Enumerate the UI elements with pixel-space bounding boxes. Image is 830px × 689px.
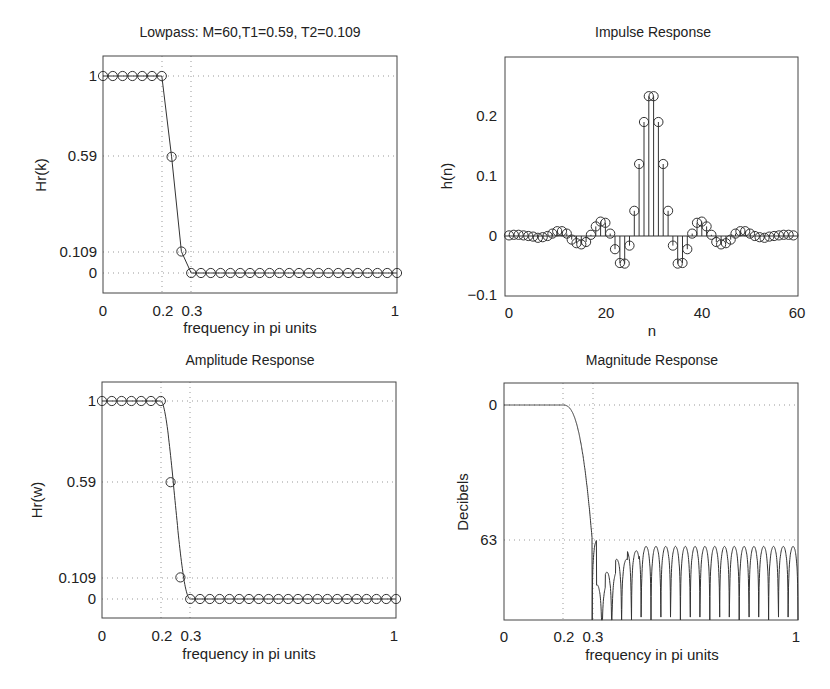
svg-text:0.59: 0.59 [67,473,96,490]
plot-magnitude-response: Magnitude Response 0 63 0 0.2 0.3 1 freq… [454,352,800,663]
svg-text:0.1: 0.1 [476,167,497,184]
plot-title: Lowpass: M=60,T1=0.59, T2=0.109 [139,24,360,40]
gridlines [103,56,397,293]
axes-frame [103,56,397,293]
svg-text:1: 1 [390,627,398,644]
data-series [98,71,401,277]
plot-title: Magnitude Response [586,352,719,368]
data-series [504,405,798,620]
svg-text:−0.1: −0.1 [467,286,497,303]
y-axis-label: h(n) [438,163,455,190]
x-axis-label: frequency in pi units [182,645,315,662]
plot-title: Impulse Response [595,24,711,40]
y-axis-label: Hr(k) [32,158,49,191]
x-tick-labels: 0 0.2 0.3 1 [500,628,800,645]
data-series [97,396,400,603]
response-line [103,76,397,273]
y-tick-labels: 1 0.59 0.109 0 [59,67,97,281]
x-axis-label: n [648,322,656,339]
svg-text:0.2: 0.2 [476,107,497,124]
axes-frame [102,382,396,618]
svg-text:0.3: 0.3 [182,302,203,319]
svg-text:0.2: 0.2 [554,628,575,645]
y-tick-labels: 1 0.59 0.109 0 [58,392,96,607]
y-tick-labels: 0 63 [480,396,497,548]
y-axis-label: Hr(w) [28,482,45,519]
y-tick-labels: 0.2 0.1 0 −0.1 [467,107,497,303]
svg-text:0: 0 [500,628,508,645]
data-series [504,92,798,269]
svg-text:0: 0 [98,627,106,644]
svg-text:0: 0 [89,264,97,281]
plot-amplitude-response: Amplitude Response 1 0.59 0.109 0 0 0.2 … [28,352,401,662]
svg-text:0.3: 0.3 [583,628,604,645]
svg-text:0.2: 0.2 [152,627,173,644]
svg-text:1: 1 [391,302,399,319]
svg-text:20: 20 [598,304,615,321]
plot-lowpass-hrk: Lowpass: M=60,T1=0.59, T2=0.109 1 0.59 0… [32,24,402,336]
svg-text:0.3: 0.3 [181,627,202,644]
svg-text:0: 0 [489,396,497,413]
x-axis-label: frequency in pi units [183,319,316,336]
svg-text:60: 60 [789,304,806,321]
svg-text:40: 40 [694,304,711,321]
stem-marker [586,230,595,239]
plot-title: Amplitude Response [185,352,314,368]
y-axis-label: Decibels [454,473,471,531]
svg-text:0.59: 0.59 [68,147,97,164]
svg-text:1: 1 [89,67,97,84]
svg-text:1: 1 [792,628,800,645]
svg-text:0.2: 0.2 [153,302,174,319]
x-tick-labels: 0 20 40 60 [505,304,806,321]
x-tick-labels: 0 0.2 0.3 1 [99,302,399,319]
svg-text:0: 0 [99,302,107,319]
svg-text:0.109: 0.109 [59,243,97,260]
svg-text:63: 63 [480,531,497,548]
response-line [102,401,396,599]
svg-text:0.109: 0.109 [58,569,96,586]
plot-impulse-response: Impulse Response 0.2 0.1 0 −0.1 0 20 40 … [438,24,805,339]
gridlines [102,382,396,618]
figure: Lowpass: M=60,T1=0.59, T2=0.109 1 0.59 0… [0,0,830,689]
magnitude-db-line [504,405,798,620]
svg-text:1: 1 [88,392,96,409]
svg-text:0: 0 [88,590,96,607]
svg-text:0: 0 [505,304,513,321]
x-axis-label: frequency in pi units [585,646,718,663]
x-tick-labels: 0 0.2 0.3 1 [98,627,398,644]
svg-text:0: 0 [489,227,497,244]
